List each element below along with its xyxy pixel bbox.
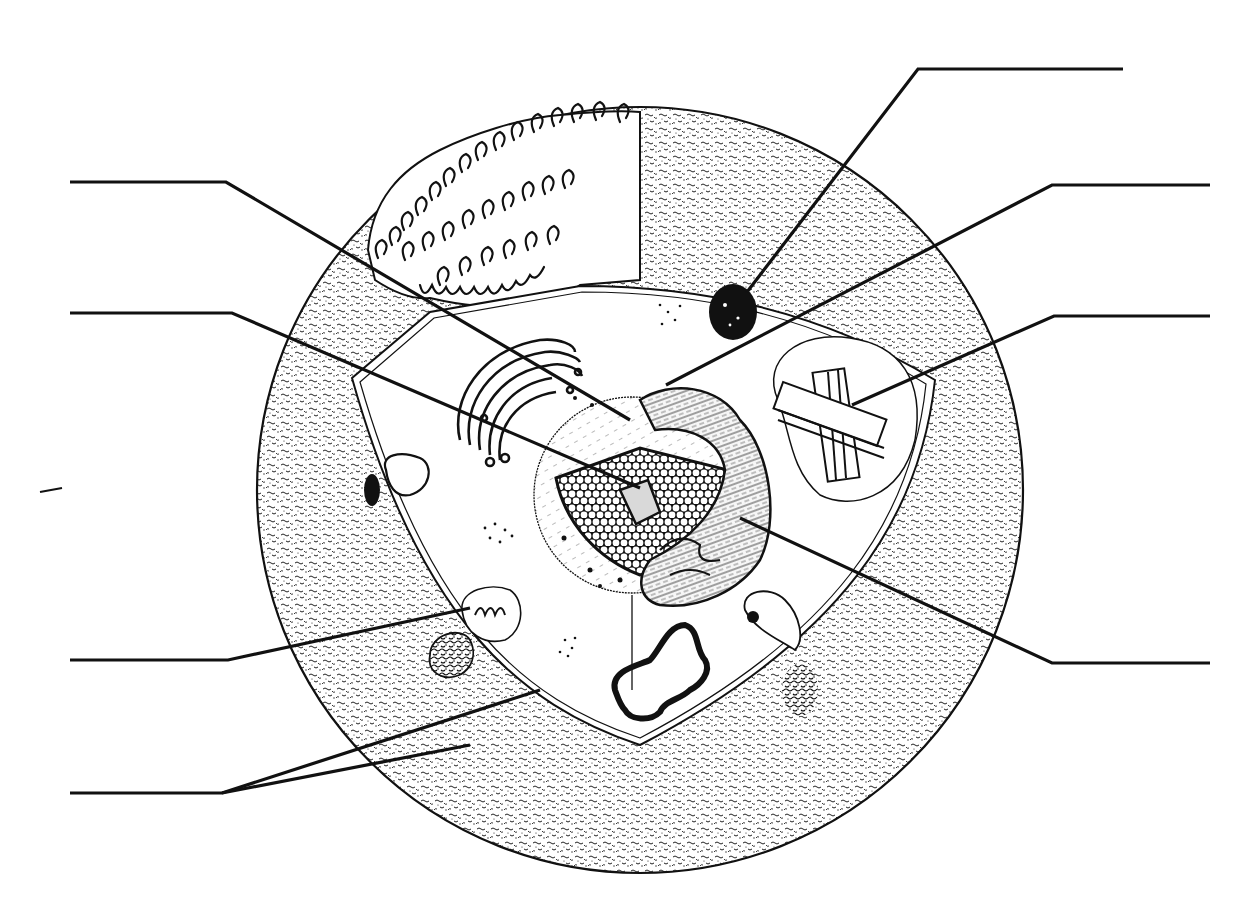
microvilli [368, 102, 640, 306]
label-slot-left-4[interactable] [72, 771, 222, 791]
label-slot-left-2[interactable] [72, 291, 222, 311]
label-slot-right-3[interactable] [1056, 294, 1206, 314]
label-slot-right-1[interactable] [950, 47, 1100, 67]
secretory-granule [709, 284, 757, 340]
label-slot-right-2[interactable] [1056, 163, 1206, 183]
cell-diagram [0, 0, 1256, 904]
label-slot-left-3[interactable] [72, 638, 222, 658]
label-slot-right-4[interactable] [1056, 641, 1206, 661]
label-slot-left-1[interactable] [72, 160, 222, 180]
stray-mark [40, 488, 62, 492]
